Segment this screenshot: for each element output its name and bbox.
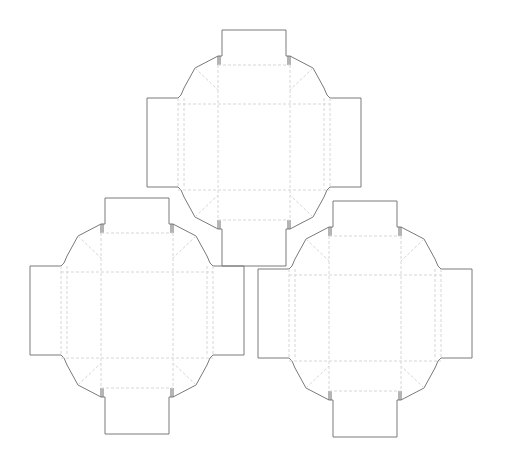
dieline-bottom-right: [258, 201, 472, 437]
dieline-sheet: [0, 0, 506, 461]
dieline-bottom-left: [30, 198, 244, 434]
